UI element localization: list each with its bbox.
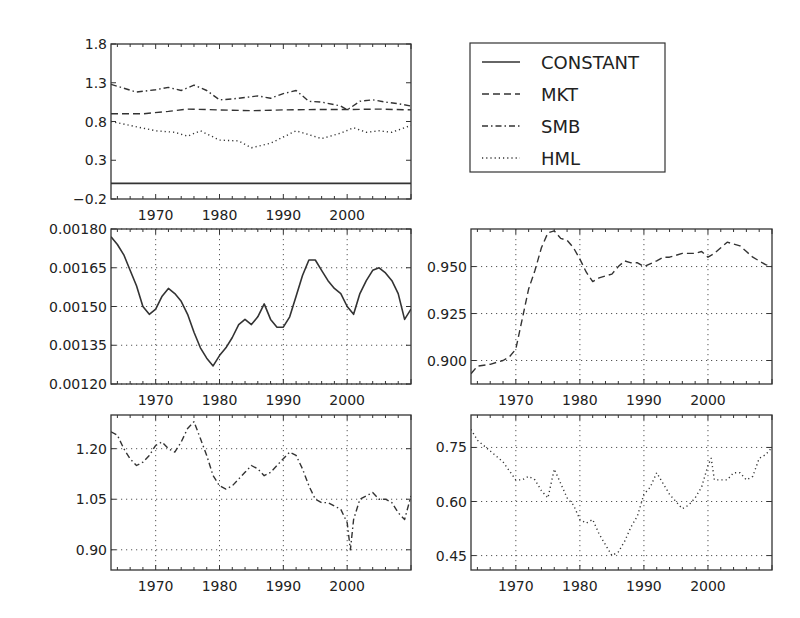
- legend-label-constant: CONSTANT: [541, 52, 640, 73]
- x-tick-label: 2000: [329, 392, 365, 408]
- x-tick-label: 1980: [202, 207, 238, 223]
- y-tick-label: 0.3: [85, 152, 107, 168]
- y-tick-label: 0.950: [427, 259, 467, 275]
- y-tick-label: 0.00180: [49, 221, 107, 237]
- legend-label-hml: HML: [541, 148, 580, 169]
- x-tick-label: 1990: [626, 578, 662, 594]
- combined-factor-loadings-plot: −0.20.30.81.31.81970198019902000: [73, 36, 411, 223]
- x-tick-label: 1990: [266, 392, 302, 408]
- x-tick-label: 2000: [690, 578, 726, 594]
- x-tick-label: 2000: [329, 207, 365, 223]
- series-line-constant: [111, 237, 411, 366]
- mkt-plot: 0.9000.9250.9501970198019902000: [427, 229, 772, 408]
- y-tick-label: 0.8: [85, 114, 107, 130]
- constant-plot: 0.001200.001350.001500.001650.0018019701…: [49, 221, 411, 408]
- y-tick-label: 0.45: [436, 548, 467, 564]
- smb-plot: 0.901.051.201970198019902000: [76, 415, 411, 594]
- legend: CONSTANTMKTSMBHML: [470, 43, 665, 172]
- y-tick-label: 0.60: [436, 494, 467, 510]
- x-tick-label: 1970: [498, 392, 534, 408]
- x-tick-label: 1990: [626, 392, 662, 408]
- y-tick-label: 0.00150: [49, 299, 107, 315]
- y-tick-label: 1.20: [76, 441, 107, 457]
- y-tick-label: 0.900: [427, 353, 467, 369]
- figure: −0.20.30.81.31.81970198019902000 CONSTAN…: [0, 0, 800, 618]
- y-tick-label: 0.75: [436, 439, 467, 455]
- series-line-mkt: [471, 231, 772, 374]
- y-tick-label: 1.8: [85, 36, 107, 52]
- series-line-mkt: [111, 109, 411, 114]
- x-tick-label: 1990: [266, 578, 302, 594]
- legend-label-smb: SMB: [541, 116, 580, 137]
- axes-frame: [471, 415, 772, 570]
- x-tick-label: 2000: [690, 392, 726, 408]
- axes-frame: [111, 44, 411, 199]
- y-tick-label: 1.05: [76, 491, 107, 507]
- y-tick-label: 0.90: [76, 542, 107, 558]
- x-tick-label: 1970: [138, 578, 174, 594]
- x-tick-label: 1980: [562, 392, 598, 408]
- x-tick-label: 1980: [202, 578, 238, 594]
- x-tick-label: 1970: [138, 207, 174, 223]
- y-tick-label: 0.00135: [49, 337, 107, 353]
- axes-frame: [111, 415, 411, 570]
- y-tick-label: 1.3: [85, 75, 107, 91]
- x-tick-label: 1980: [562, 578, 598, 594]
- series-line-smb: [111, 84, 411, 110]
- x-tick-label: 2000: [329, 578, 365, 594]
- legend-label-mkt: MKT: [541, 84, 579, 105]
- y-tick-label: 0.00120: [49, 376, 107, 392]
- y-tick-label: −0.2: [73, 191, 107, 207]
- y-tick-label: 0.00165: [49, 260, 107, 276]
- y-tick-label: 0.925: [427, 306, 467, 322]
- x-tick-label: 1980: [202, 392, 238, 408]
- x-tick-label: 1970: [138, 392, 174, 408]
- series-line-hml: [471, 429, 772, 555]
- x-tick-label: 1990: [266, 207, 302, 223]
- series-line-hml: [111, 122, 411, 148]
- hml-plot: 0.450.600.751970198019902000: [436, 415, 772, 594]
- x-tick-label: 1970: [498, 578, 534, 594]
